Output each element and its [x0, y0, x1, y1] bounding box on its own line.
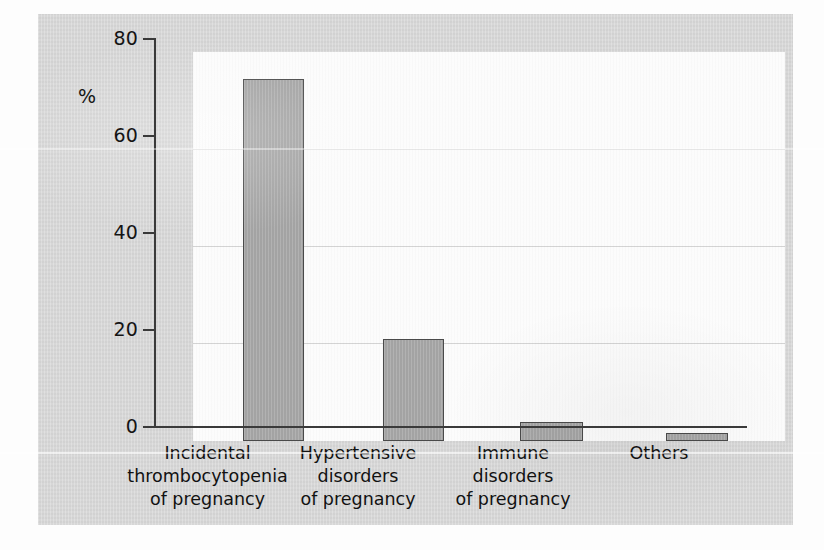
bar-others [666, 433, 728, 441]
y-axis-label: % [78, 85, 96, 107]
y-tick-40 [143, 232, 155, 234]
bar-incidental-thrombocytopenia [243, 79, 304, 441]
x-axis-line [155, 426, 747, 428]
y-tick-20 [143, 329, 155, 331]
y-tick-label-40: 40 [113, 223, 138, 242]
y-tick-80 [143, 38, 155, 40]
y-tick-0 [143, 426, 155, 428]
y-tick-label-60: 60 [113, 126, 138, 145]
y-tick-label-20: 20 [113, 320, 138, 339]
x-category-label-others: Others [598, 442, 720, 465]
figure-page: 80 60 40 20 0 % Incidental thrombocytope… [0, 0, 824, 550]
y-tick-60 [143, 135, 155, 137]
x-category-label-incidental-thrombocytopenia: Incidental thrombocytopenia of pregnancy [120, 442, 295, 511]
x-category-label-hypertensive-disorders: Hypertensive disorders of pregnancy [283, 442, 433, 511]
y-tick-label-0: 0 [126, 417, 138, 436]
x-category-label-immune-disorders: Immune disorders of pregnancy [437, 442, 589, 511]
plot-area [193, 52, 785, 441]
y-tick-label-80: 80 [113, 29, 138, 48]
bar-immune-disorders [520, 422, 583, 441]
